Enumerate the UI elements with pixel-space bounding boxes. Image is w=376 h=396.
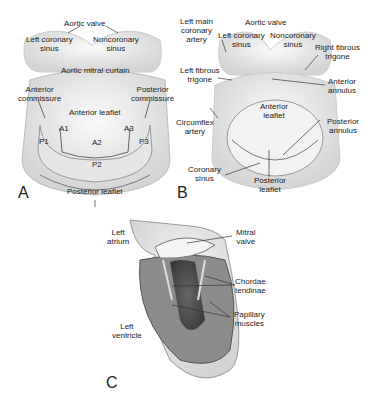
label-a-anterior-leaflet: Anterior leaflet: [69, 108, 121, 117]
label-a-noncoronary-sinus: Noncoronary sinus: [93, 35, 139, 53]
label-c-mitral-valve: Mitral valve: [236, 228, 256, 246]
label-a-left-coronary-sinus: Left coronary sinus: [26, 35, 73, 53]
label-c-papillary-muscles: Papillary muscles: [234, 310, 265, 328]
label-b-left-main-coronary-artery: Left main coronary artery: [180, 17, 213, 44]
panel-c-artwork: [130, 220, 239, 378]
label-a-posterior-leaflet: Posterior leaflet: [67, 187, 123, 196]
label-b-anterior-leaflet: Anterior leaflet: [260, 102, 288, 120]
label-a-p3: P3: [139, 137, 149, 146]
label-b-noncoronary-sinus: Noncoronary sinus: [270, 31, 316, 49]
panel-letter-c: C: [106, 374, 118, 392]
label-b-circumflex-artery: Circumflex artery: [176, 118, 214, 136]
label-b-right-fibrous-trigone: Right fibrous trigone: [315, 43, 360, 61]
panel-letter-b: B: [177, 184, 188, 202]
label-a-p1: P1: [39, 137, 49, 146]
label-c-left-ventricle: Left ventricle: [112, 322, 142, 340]
panel-letter-a: A: [18, 184, 29, 202]
label-a-posterior-commissure: Posterior commissure: [131, 85, 174, 103]
label-a-a2: A2: [92, 138, 102, 147]
label-a-a1: A1: [59, 124, 69, 133]
label-a-aortic-mitral-curtain: Aortic mitral curtain: [61, 66, 129, 75]
label-b-posterior-leaflet: Posterior leaflet: [254, 176, 286, 194]
label-a-anterior-commissure: Anterior commissure: [18, 85, 61, 103]
label-c-chordae-tendinae: Chordae tendinae: [235, 277, 266, 295]
label-a-aortic-valve: Aortic valve: [64, 19, 105, 28]
label-b-coronary-sinus: Coronary sinus: [188, 165, 221, 183]
label-a-a3: A3: [124, 124, 134, 133]
label-b-left-fibrous-trigone: Left fibrous trigone: [180, 66, 220, 84]
label-c-left-atrium: Left atrium: [107, 228, 129, 246]
label-b-left-coronary-sinus: Left coronary sinus: [218, 31, 265, 49]
label-b-posterior-annulus: Posterior annulus: [327, 117, 359, 135]
label-b-anterior-annulus: Anterior annulus: [328, 77, 356, 95]
label-b-aortic-valve: Aortic valve: [245, 18, 286, 27]
label-a-p2: P2: [92, 160, 102, 169]
